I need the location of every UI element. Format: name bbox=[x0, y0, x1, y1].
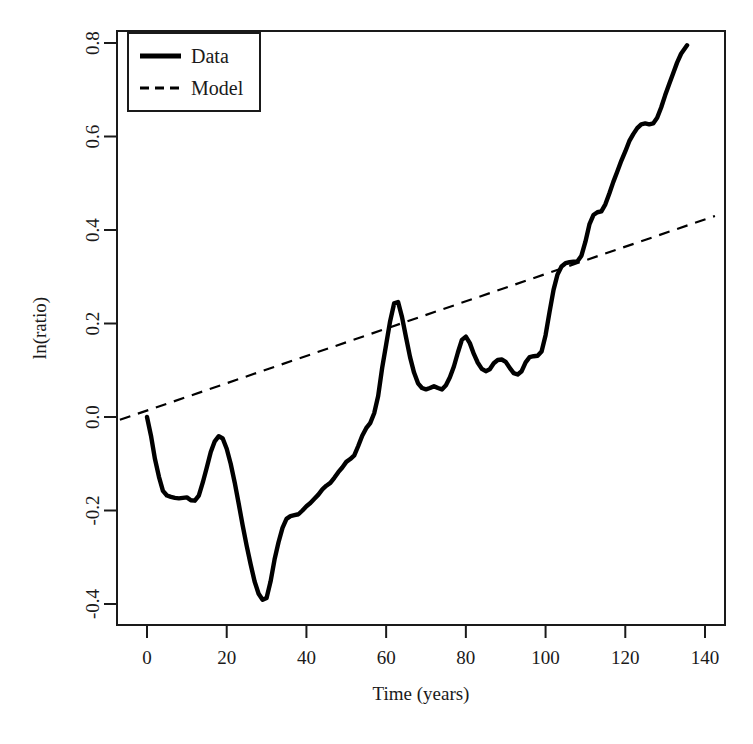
y-axis-title: ln(ratio) bbox=[29, 297, 51, 359]
chart-legend: Data Model bbox=[128, 33, 260, 111]
y-tick-label: 0.8 bbox=[82, 31, 103, 55]
x-tick-label: 120 bbox=[611, 647, 640, 668]
x-tick-label: 60 bbox=[377, 647, 396, 668]
x-tick-label: 20 bbox=[217, 647, 236, 668]
x-tick-label: 80 bbox=[456, 647, 475, 668]
chart-svg: 020406080100120140 -0.4-0.20.00.20.40.60… bbox=[0, 0, 753, 744]
x-tick-label: 40 bbox=[297, 647, 316, 668]
y-tick-label: -0.4 bbox=[82, 588, 103, 619]
chart-figure: 020406080100120140 -0.4-0.20.00.20.40.60… bbox=[0, 0, 753, 744]
legend-label-model: Model bbox=[191, 77, 244, 99]
x-axis-title: Time (years) bbox=[373, 683, 470, 705]
y-tick-label: 0.2 bbox=[82, 312, 103, 336]
y-tick-label: 0.4 bbox=[82, 218, 103, 242]
x-tick-label: 140 bbox=[691, 647, 720, 668]
y-tick-label: 0.6 bbox=[82, 125, 103, 149]
figure-background bbox=[0, 0, 753, 744]
y-tick-label: -0.2 bbox=[82, 495, 103, 525]
x-tick-label: 100 bbox=[531, 647, 560, 668]
x-tick-label: 0 bbox=[142, 647, 152, 668]
y-tick-label: 0.0 bbox=[82, 405, 103, 429]
legend-label-data: Data bbox=[191, 45, 229, 67]
